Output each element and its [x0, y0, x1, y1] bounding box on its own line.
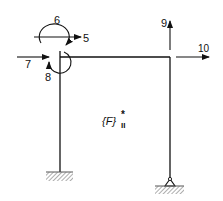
force-vector-label: {F} * II	[102, 109, 125, 130]
dof-6-label: 6	[54, 14, 60, 26]
force-vector-base: {F}	[102, 115, 116, 127]
fixed-support-icon	[46, 172, 73, 181]
force-vector-superscript: *	[121, 109, 125, 120]
frame-diagram: 5 6 7 8 9 10 {F} * II	[0, 0, 223, 201]
force-vector-subscript: II	[121, 121, 125, 130]
dof-8-label: 8	[45, 71, 51, 83]
dof-9-label: 9	[161, 17, 167, 29]
dof-6-rotation-icon	[39, 24, 69, 45]
pin-support-icon	[155, 177, 184, 194]
dof-10-label: 10	[198, 43, 210, 54]
dof-5-label: 5	[83, 32, 89, 44]
dof-7-label: 7	[25, 58, 31, 70]
